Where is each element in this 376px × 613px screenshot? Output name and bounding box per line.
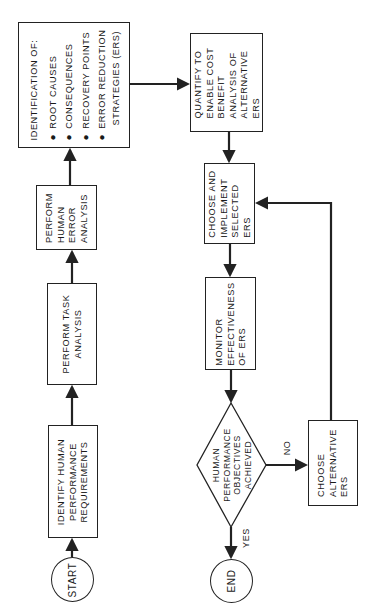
identify-requirements-text: IDENTIFY HUMAN PERFORMANCE REQUIREMENTS	[56, 438, 91, 524]
yes-edge-label: YES	[241, 528, 251, 548]
bullet-consequences: CONSEQUENCES	[61, 30, 78, 141]
error-analysis-text: PERFORM HUMAN ERROR ANALYSIS	[44, 192, 90, 242]
choose-implement-box: CHOOSE AND IMPLEMENT SELECTED ERS	[204, 163, 255, 244]
task-analysis-box: PERFORM TASK ANALYSIS	[47, 283, 97, 385]
choose-implement-text: CHOOSE AND IMPLEMENT SELECTED ERS	[207, 170, 253, 237]
identification-box: IDENTIFICATION OF: ROOT CAUSES CONSEQUEN…	[18, 22, 130, 148]
error-analysis-box: PERFORM HUMAN ERROR ANALYSIS	[36, 185, 97, 250]
bullet-error-reduction: ERROR REDUCTION	[94, 30, 111, 141]
task-analysis-text: PERFORM TASK ANALYSIS	[61, 295, 84, 374]
quantify-text: QUANTIFY TO ENABLE COST BENEFIT ANALYSIS…	[192, 47, 261, 118]
identification-text: IDENTIFICATION OF: ROOT CAUSES CONSEQUEN…	[27, 30, 122, 141]
monitor-text: MONITOR EFFECTIVENESS OF ERS	[213, 282, 248, 365]
bullet-root-causes: ROOT CAUSES	[44, 30, 61, 141]
bullet-strategies-cont: STRATEGIES (ERS)	[110, 30, 121, 141]
end-label: END	[226, 570, 238, 593]
end-node: END	[210, 559, 253, 603]
choose-alternative-text: CHOOSE ALTERNATIVE ERS	[316, 429, 351, 497]
choose-alternative-box: CHOOSE ALTERNATIVE ERS	[308, 420, 358, 506]
monitor-box: MONITOR EFFECTIVENESS OF ERS	[205, 277, 256, 370]
bullet-recovery-points: RECOVERY POINTS	[77, 30, 94, 141]
decision-node: HUMAN PERFORMANCE OBJECTIVES ACHIEVED	[197, 403, 266, 527]
decision-text: HUMAN PERFORMANCE OBJECTIVES ACHIEVED	[211, 428, 253, 501]
start-label: START	[67, 562, 79, 597]
identify-requirements-box: IDENTIFY HUMAN PERFORMANCE REQUIREMENTS	[48, 425, 98, 538]
quantify-box: QUANTIFY TO ENABLE COST BENEFIT ANALYSIS…	[190, 33, 263, 132]
no-edge-label: NO	[282, 441, 292, 456]
start-node: START	[51, 557, 94, 602]
